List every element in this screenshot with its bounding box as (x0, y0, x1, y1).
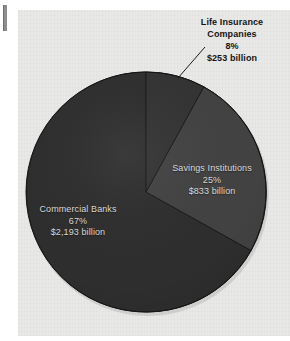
pie-chart-figure: Life Insurance Companies 8% $253 billion… (0, 0, 290, 341)
pie-shading-overlay (26, 72, 266, 312)
slice-label-life-insurance-percent: 8% (178, 40, 286, 52)
slice-label-life-insurance-name-1: Life Insurance (178, 16, 286, 28)
slice-label-life-insurance-name-2: Companies (178, 28, 286, 40)
slice-label-life-insurance-amount: $253 billion (178, 52, 286, 64)
slice-label-life-insurance: Life Insurance Companies 8% $253 billion (178, 16, 286, 64)
